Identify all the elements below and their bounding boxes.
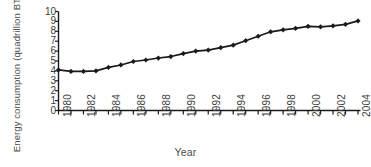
- x-axis-tick-label: 1990: [187, 94, 197, 117]
- x-axis-tick-label: 1994: [237, 94, 247, 117]
- x-axis-tick-label: 1980: [63, 94, 73, 117]
- x-axis-tick-label: 1984: [112, 94, 122, 117]
- x-axis-tick-label: 1982: [87, 94, 97, 117]
- x-axis-tick-labels: 1980198219841986198819901992199419961998…: [0, 0, 371, 167]
- x-axis-tick-label: 1998: [287, 94, 297, 117]
- x-axis-tick-label: 1988: [162, 94, 172, 117]
- x-axis-tick-label: 1996: [262, 94, 272, 117]
- x-axis-tick-label: 2004: [362, 94, 371, 117]
- x-axis-label: Year: [0, 146, 371, 158]
- x-axis-tick-label: 1992: [212, 94, 222, 117]
- energy-consumption-line-chart: Energy consumption (quadrillion BTU) 109…: [0, 0, 371, 167]
- x-axis-tick-label: 2000: [312, 94, 322, 117]
- x-axis-tick-label: 2002: [337, 94, 347, 117]
- x-axis-tick-label: 1986: [137, 94, 147, 117]
